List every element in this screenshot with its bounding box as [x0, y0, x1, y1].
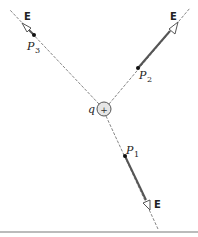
point-label-p2: P 2: [138, 69, 152, 84]
electric-field-diagram: + q E E E P 3 P 2 P 1: [0, 0, 198, 237]
svg-text:3: 3: [35, 46, 40, 55]
svg-text:P: P: [138, 69, 147, 82]
charge-label: q: [88, 103, 95, 116]
point-dots: [32, 33, 140, 158]
svg-text:P: P: [125, 144, 134, 157]
svg-text:1: 1: [134, 150, 139, 159]
arrowhead-p2-icon: [169, 22, 178, 34]
charge: + q: [88, 102, 111, 116]
point-label-p1: P 1: [125, 144, 139, 159]
field-label-p2: E: [170, 11, 177, 22]
field-vector-p1: [125, 156, 146, 200]
svg-text:P: P: [26, 40, 35, 53]
svg-text:2: 2: [147, 75, 152, 84]
point-label-p3: P 3: [26, 40, 40, 55]
field-label-p1: E: [154, 199, 161, 210]
radial-lines: [10, 8, 190, 229]
bottom-rule: [0, 231, 198, 233]
field-label-p3: E: [24, 11, 31, 22]
arrowhead-p1-icon: [143, 200, 150, 210]
charge-sign: +: [100, 105, 108, 115]
field-vector-p2: [138, 31, 170, 68]
point-p3-dot: [32, 33, 36, 37]
